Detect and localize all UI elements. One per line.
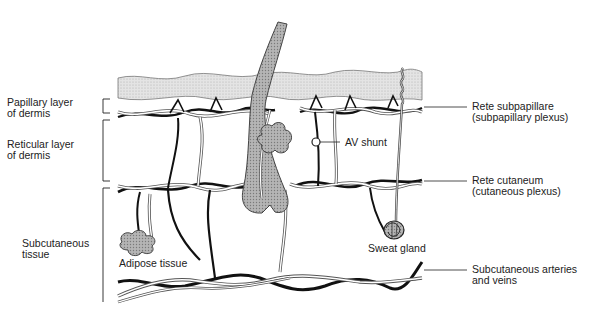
hair-follicle (242, 22, 288, 213)
sebaceous-gland (258, 123, 292, 153)
label-adipose-tissue: Adipose tissue (119, 258, 187, 269)
adipose-tissue (120, 230, 155, 255)
label-sweat-gland: Sweat gland (368, 243, 426, 254)
label-subcutaneous-vessels: Subcutaneous arteries and veins (472, 264, 577, 286)
label-reticular-layer: Reticular layer of dermis (7, 139, 74, 161)
label-papillary-layer: Papillary layer of dermis (7, 97, 73, 119)
label-av-shunt: AV shunt (345, 137, 387, 148)
label-rete-cutaneum: Rete cutaneum (cutaneous plexus) (472, 175, 561, 197)
right-leader-lines (424, 107, 467, 270)
sweat-gland (384, 221, 404, 239)
skin-diagram: Papillary layer of dermis Reticular laye… (0, 0, 593, 317)
label-subcutaneous-tissue: Subcutaneous tissue (22, 238, 89, 260)
label-rete-subpapillare: Rete subpapillare (subpapillary plexus) (472, 101, 568, 123)
left-brackets (103, 99, 110, 302)
